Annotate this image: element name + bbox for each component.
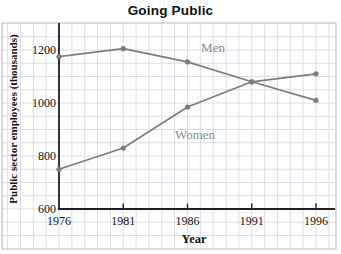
y-tick-label: 600 — [38, 202, 56, 216]
data-point-women-1981 — [121, 145, 126, 150]
y-tick-label: 1200 — [32, 43, 56, 57]
data-point-women-1991 — [249, 79, 254, 84]
data-point-women-1996 — [313, 71, 318, 76]
y-tick-label: 1000 — [32, 96, 56, 110]
x-tick-label: 1996 — [304, 214, 328, 228]
x-tick-label: 1981 — [111, 214, 135, 228]
data-point-women-1986 — [185, 104, 190, 109]
x-tick-label: 1976 — [47, 214, 71, 228]
series-label-men: Men — [201, 40, 225, 56]
data-point-men-1986 — [185, 59, 190, 64]
y-tick-label: 800 — [38, 149, 56, 163]
y-axis-title: Public sector employees (thousands) — [7, 34, 19, 203]
data-point-men-1981 — [121, 46, 126, 51]
data-point-women-1976 — [56, 167, 61, 172]
x-axis-title: Year — [182, 232, 207, 247]
series-label-women: Women — [175, 127, 215, 143]
x-tick-label: 1986 — [176, 214, 200, 228]
data-point-men-1976 — [56, 54, 61, 59]
x-tick-label: 1991 — [240, 214, 264, 228]
chart-canvas: 1976198119861991199660080010001200 — [0, 0, 341, 254]
data-point-men-1996 — [313, 98, 318, 103]
chart-figure: Going Public 197619811986199119966008001… — [0, 0, 341, 254]
